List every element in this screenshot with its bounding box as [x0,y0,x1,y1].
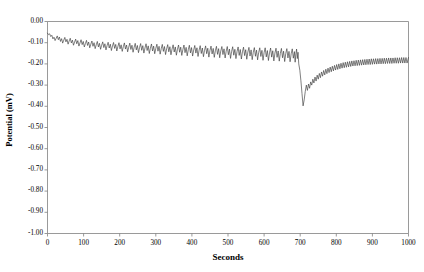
data-series-line [48,33,409,106]
plot-canvas [0,0,424,272]
tick-marks-group [45,22,409,237]
potential-vs-time-chart: Potential (mV) Seconds 0.00-0.10-0.20-0.… [0,0,424,272]
